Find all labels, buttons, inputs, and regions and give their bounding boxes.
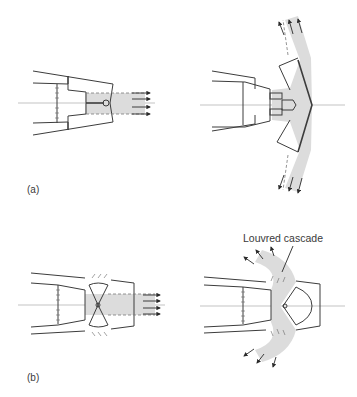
panel-label-b: (b) [27,372,39,383]
exhaust-flow [85,294,155,315]
panel-label-a: (a) [27,184,39,195]
panel-b-reverse-thrust [200,246,345,367]
deflected-flow [272,16,312,192]
thrust-reverser-diagram: (a) [0,0,357,397]
panel-a-reverse-thrust [200,16,345,193]
panel-a-forward-thrust [18,71,155,135]
louvred-cascade-label: Louvred cascade [243,232,323,244]
core-outline [212,81,270,127]
panel-b-forward-thrust [18,273,165,336]
